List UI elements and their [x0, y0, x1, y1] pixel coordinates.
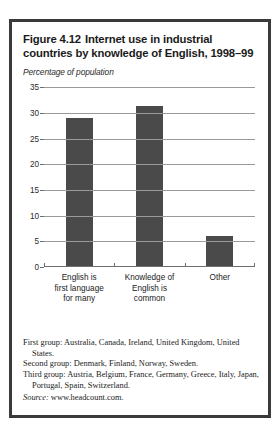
y-axis-tick-mark [40, 241, 44, 242]
y-axis-tick-mark [40, 267, 44, 268]
y-axis-tick-mark [40, 164, 44, 165]
y-axis-tick-label: 10 [30, 211, 39, 220]
figure-notes: First group: Australia, Canada, Ireland,… [23, 338, 259, 403]
category-label-line: first language [44, 284, 114, 294]
y-axis-tick-mark [40, 139, 44, 140]
source-label: Source: [23, 393, 49, 402]
category-label-line: common [114, 294, 184, 304]
figure-subtitle: Percentage of population [23, 67, 257, 77]
category-label: Knowledge ofEnglish iscommon [114, 273, 184, 304]
bar [66, 118, 93, 266]
x-axis-tick [114, 263, 115, 267]
gridline [44, 139, 255, 140]
chart-area: 05101520253035 English isfirst languagef… [23, 81, 261, 313]
x-axis-tick [44, 263, 45, 267]
y-axis-tick-mark [40, 87, 44, 88]
gridline [44, 87, 255, 88]
category-label-line: English is [114, 284, 184, 294]
y-axis-tick-label: 30 [30, 108, 39, 117]
note-third-group: Third group: Austria, Belgium, France, G… [23, 370, 259, 391]
x-axis-tick [254, 263, 255, 267]
y-axis-tick-label: 0 [34, 263, 39, 272]
x-axis-tick [185, 263, 186, 267]
y-axis-tick-label: 15 [30, 186, 39, 195]
figure-frame: Figure 4.12Internet use in industrial co… [9, 19, 271, 418]
y-axis-tick-label: 20 [30, 160, 39, 169]
category-label-line: English is [44, 273, 114, 283]
source-value: www.headcount.com. [51, 393, 124, 402]
category-label: English isfirst languagefor many [44, 273, 114, 304]
y-axis-tick-label: 35 [30, 83, 39, 92]
y-axis-tick-label: 25 [30, 134, 39, 143]
y-axis-tick-label: 5 [34, 237, 39, 246]
gridline [44, 164, 255, 165]
plot-region: 05101520253035 [44, 87, 255, 267]
gridline [44, 216, 255, 217]
bar-series [44, 87, 255, 266]
y-axis-tick-mark [40, 190, 44, 191]
category-label: Other [185, 273, 255, 304]
category-label-line: Other [185, 273, 255, 283]
figure-number: Figure 4.12 [23, 33, 81, 45]
bar-cell [44, 87, 114, 266]
gridline [44, 113, 255, 114]
gridline [44, 190, 255, 191]
category-label-line: Knowledge of [114, 273, 184, 283]
y-axis-tick-mark [40, 113, 44, 114]
note-first-group: First group: Australia, Canada, Ireland,… [23, 338, 259, 359]
note-second-group: Second group: Denmark, Finland, Norway, … [23, 359, 259, 370]
gridline [44, 241, 255, 242]
x-axis-line [44, 266, 255, 267]
bar-cell [185, 87, 255, 266]
bar-cell [114, 87, 184, 266]
note-source: Source: www.headcount.com. [23, 393, 259, 404]
category-label-line: for many [44, 294, 114, 304]
category-labels: English isfirst languagefor manyKnowledg… [44, 273, 255, 304]
figure-title: Figure 4.12Internet use in industrial co… [23, 33, 257, 60]
y-axis-tick-mark [40, 216, 44, 217]
